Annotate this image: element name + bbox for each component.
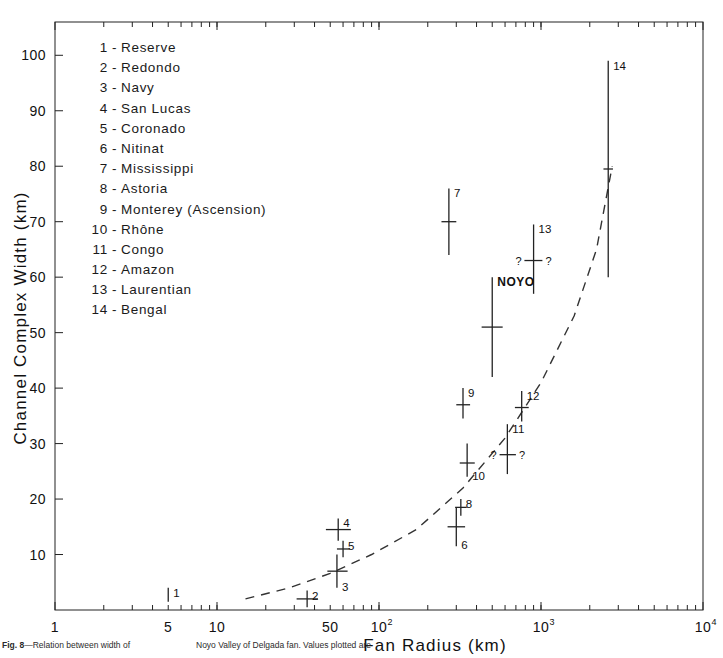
x-tick-label-group: 104 <box>695 617 717 635</box>
y-tick-label: 40 <box>29 380 46 396</box>
data-point: 11?? <box>491 423 525 474</box>
legend-item-name: Nitinat <box>121 139 164 159</box>
y-tick-label: 20 <box>29 491 46 507</box>
legend-item-dash: - <box>108 200 121 220</box>
legend-item-name: Laurentian <box>121 280 192 300</box>
legend-item: 2-Redondo <box>86 58 336 78</box>
legend-item: 1-Reserve <box>86 38 336 58</box>
x-tick-label: 10 <box>371 619 388 635</box>
y-tick-label: 60 <box>29 269 46 285</box>
series-legend: 1-Reserve2-Redondo3-Navy4-San Lucas5-Cor… <box>86 38 336 321</box>
uncertainty-question-mark-left: ? <box>491 449 497 461</box>
data-point: 14 <box>603 60 626 277</box>
legend-item: 9-Monterey (Ascension) <box>86 200 336 220</box>
uncertainty-question-mark-right: ? <box>519 449 525 461</box>
legend-item: 7-Mississippi <box>86 159 336 179</box>
data-point-label: 2 <box>312 590 318 602</box>
x-tick-exponent: 2 <box>387 617 392 627</box>
legend-item-dash: - <box>108 119 121 139</box>
legend-item-number: 13 <box>86 280 108 300</box>
legend-item: 11-Congo <box>86 240 336 260</box>
data-point-label: 3 <box>342 581 348 593</box>
data-point-label: 1 <box>173 587 179 599</box>
x-tick-label: 5 <box>164 619 172 635</box>
data-point: 4 <box>326 517 351 540</box>
legend-item-name: Astoria <box>121 179 168 199</box>
legend-item-name: Coronado <box>121 119 186 139</box>
x-tick-label-group: 1 <box>51 619 59 635</box>
figure-container: 151050102103104 102030405060708090100 12… <box>0 0 723 658</box>
legend-item-dash: - <box>108 220 121 240</box>
legend-item-name: Amazon <box>121 260 175 280</box>
data-point-label: 5 <box>348 540 354 552</box>
x-tick-label: 50 <box>322 619 339 635</box>
data-point-label: 4 <box>343 517 350 529</box>
legend-item-dash: - <box>108 58 121 78</box>
legend-item-number: 14 <box>86 300 108 320</box>
y-axis-ticks <box>55 55 63 554</box>
x-tick-label-group: 5 <box>164 619 172 635</box>
legend-item-dash: - <box>108 99 121 119</box>
x-tick-label: 10 <box>209 619 226 635</box>
y-tick-label: 80 <box>29 158 46 174</box>
x-axis-tick-labels: 151050102103104 <box>51 617 717 635</box>
legend-item-number: 8 <box>86 179 108 199</box>
legend-item-number: 9 <box>86 200 108 220</box>
data-point: 6 <box>448 507 468 551</box>
data-point-label: 10 <box>472 470 485 482</box>
legend-item: 8-Astoria <box>86 179 336 199</box>
legend-item-number: 2 <box>86 58 108 78</box>
legend-item-name: Navy <box>121 78 155 98</box>
x-tick-label-group: 102 <box>371 617 393 635</box>
y-tick-label: 70 <box>29 214 46 230</box>
legend-item: 10-Rhône <box>86 220 336 240</box>
legend-item-dash: - <box>108 179 121 199</box>
x-tick-exponent: 4 <box>711 617 716 627</box>
legend-item-number: 6 <box>86 139 108 159</box>
legend-item-name: Congo <box>121 240 164 260</box>
y-tick-label: 90 <box>29 103 46 119</box>
special-data-point: NOYO <box>482 275 535 377</box>
legend-item: 6-Nitinat <box>86 139 336 159</box>
legend-item-dash: - <box>108 280 121 300</box>
x-tick-label: 1 <box>51 619 59 635</box>
legend-item-number: 3 <box>86 78 108 98</box>
data-point-label: 9 <box>468 387 474 399</box>
y-tick-label: 10 <box>29 547 46 563</box>
legend-item: 13-Laurentian <box>86 280 336 300</box>
data-point-label: 14 <box>613 60 626 72</box>
legend-item-name: Redondo <box>121 58 181 78</box>
data-point: 7 <box>441 187 460 255</box>
legend-item-name: Reserve <box>121 38 176 58</box>
legend-item-name: San Lucas <box>121 99 191 119</box>
legend-item-dash: - <box>108 240 121 260</box>
legend-item-name: Monterey (Ascension) <box>121 200 266 220</box>
data-point: 2 <box>297 590 319 608</box>
y-tick-label: 30 <box>29 436 46 452</box>
x-tick-label-group: 10 <box>209 619 226 635</box>
legend-item-number: 10 <box>86 220 108 240</box>
legend-item-name: Bengal <box>121 300 167 320</box>
data-point: 8 <box>455 498 472 516</box>
data-point-label: 11 <box>512 423 524 435</box>
legend-item: 14-Bengal <box>86 300 336 320</box>
legend-item-number: 11 <box>86 240 108 260</box>
figure-caption: Fig. 8—Relation between width of Noyo Va… <box>0 636 723 658</box>
special-point-label: NOYO <box>497 275 534 289</box>
y-tick-label: 50 <box>29 325 46 341</box>
data-point: 5 <box>337 540 355 558</box>
legend-item-dash: - <box>108 159 121 179</box>
legend-item: 12-Amazon <box>86 260 336 280</box>
legend-item: 5-Coronado <box>86 119 336 139</box>
legend-item-name: Rhône <box>121 220 164 240</box>
x-tick-label-group: 50 <box>322 619 339 635</box>
data-point: 1 <box>168 587 179 602</box>
x-tick-label-group: 103 <box>533 617 555 635</box>
legend-item-dash: - <box>108 300 121 320</box>
legend-item-number: 5 <box>86 119 108 139</box>
legend-item-number: 4 <box>86 99 108 119</box>
legend-item: 4-San Lucas <box>86 99 336 119</box>
legend-item-number: 12 <box>86 260 108 280</box>
legend-item-name: Mississippi <box>121 159 194 179</box>
y-axis-title: Channel Complex Width (km) <box>11 191 30 444</box>
